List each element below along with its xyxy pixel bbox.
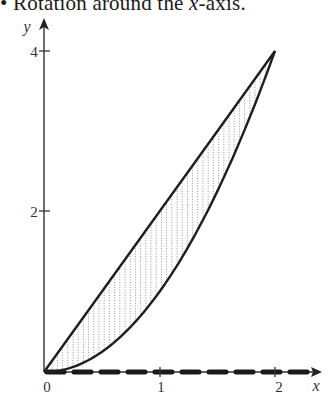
x-tick-label-2: 2: [275, 379, 283, 395]
y-axis-label: y: [21, 18, 31, 36]
x-axis-label: x: [311, 377, 319, 394]
y-tick-label-4: 4: [30, 44, 38, 60]
x-tick-label-1: 1: [157, 379, 165, 395]
y-tick-label-2: 2: [30, 204, 38, 220]
x-tick-label-0: 0: [43, 379, 51, 395]
chart: 0 1 2 2 4 x y: [0, 0, 330, 402]
line-y-2x: [44, 51, 275, 372]
